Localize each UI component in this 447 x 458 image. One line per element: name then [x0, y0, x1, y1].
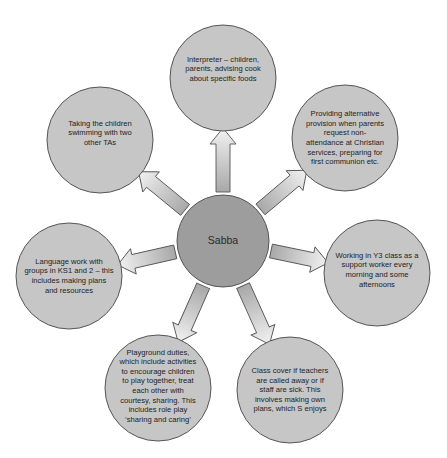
- node-label-class-cover: Class cover if teachers are called away …: [241, 341, 339, 439]
- center-label-sabba: Sabba: [180, 198, 265, 283]
- arrow-icon: [115, 239, 178, 277]
- node-label-playground-duties: Playground duties, which include activit…: [109, 337, 207, 435]
- node-label-swimming: Taking the children swimming with two ot…: [51, 84, 149, 182]
- node-label-alternative-provision: Providing alternative provision when par…: [296, 89, 394, 187]
- node-label-working-y3: Working in Y3 class as a support worker …: [328, 221, 426, 319]
- node-label-interpreter: Interpreter – children, parents, advisin…: [174, 20, 272, 118]
- arrow-icon: [210, 128, 236, 192]
- node-label-language-work: Language work with groups in KS1 and 2 –…: [20, 227, 118, 325]
- arrow-icon: [268, 238, 330, 275]
